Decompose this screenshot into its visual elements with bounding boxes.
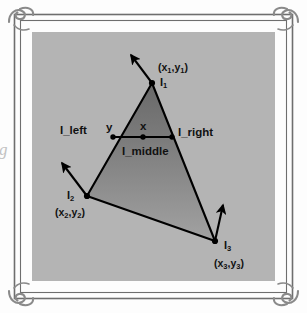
scanline-x-variable-label: x — [140, 120, 147, 132]
triangle-scanline-figure: (x1,y1) I1 I2 (x2,y2) I3 (x3,y3) I_left … — [0, 0, 307, 313]
page-bleed-glyph: g — [0, 140, 8, 159]
scanline-y-variable-label: y — [106, 121, 113, 133]
scanline-left-endpoint-dot — [110, 134, 115, 139]
scanline-left-label: I_left — [60, 124, 87, 136]
scanline-middle-label: I_middle — [122, 145, 169, 157]
figure-page: (x1,y1) I1 I2 (x2,y2) I3 (x3,y3) I_left … — [0, 0, 307, 313]
scanline-right-label: I_right — [178, 126, 213, 138]
scanline-middle-point-dot — [140, 134, 145, 139]
scanline-right-endpoint-dot — [169, 134, 174, 139]
